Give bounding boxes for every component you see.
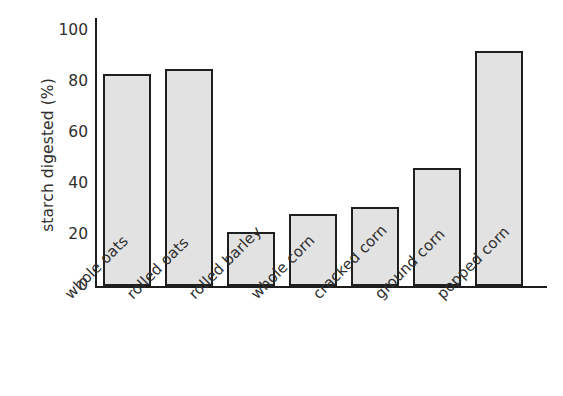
y-axis-tick-label: 60 — [42, 125, 88, 141]
y-axis-tick-label: 80 — [42, 74, 88, 90]
y-axis-tick-label: 100 — [42, 23, 88, 39]
y-axis-tick-label: 40 — [42, 176, 88, 192]
bar-chart-figure: starch digested (%) 020406080100 whole o… — [0, 0, 563, 396]
y-axis-tick-label-group: 020406080100 — [42, 0, 88, 396]
y-axis-tick-label: 20 — [42, 227, 88, 243]
x-axis-tick-label-group: whole oatsrolled oatsrolled barleywhole … — [95, 290, 563, 396]
